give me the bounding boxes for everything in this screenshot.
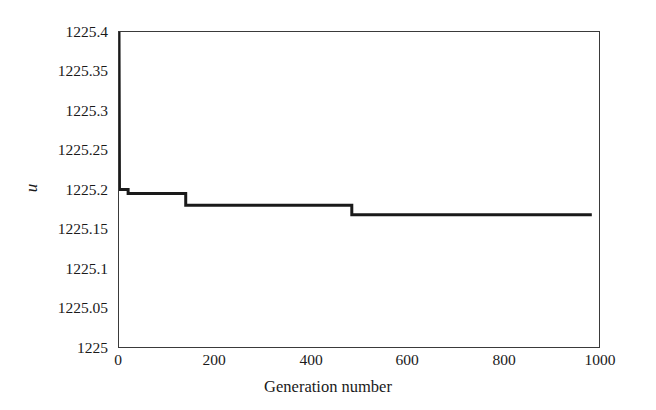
data-line-series: [119, 32, 592, 215]
x-tick-label: 0: [88, 352, 148, 368]
y-axis-title: u: [22, 166, 42, 210]
plot-area: [118, 31, 600, 348]
x-tick-label: 200: [184, 352, 244, 368]
x-axis-title: Generation number: [0, 377, 656, 397]
x-tick-label: 600: [377, 352, 437, 368]
y-tick-label: 1225.1: [10, 261, 108, 277]
y-tick-label: 1225.15: [4, 221, 108, 237]
y-tick-label: 1225.4: [10, 24, 108, 40]
x-tick-label: 800: [474, 352, 534, 368]
x-tick-label: 400: [281, 352, 341, 368]
y-tick-label: 1225.05: [4, 300, 108, 316]
chart-figure: 1225.4 1225.35 1225.3 1225.25 1225.2 122…: [0, 0, 656, 410]
y-tick-label: 1225.25: [4, 142, 108, 158]
data-line-svg: [119, 32, 599, 347]
x-tick-label: 1000: [570, 352, 630, 368]
y-tick-label: 1225.3: [10, 103, 108, 119]
y-tick-label: 1225.35: [4, 63, 108, 79]
